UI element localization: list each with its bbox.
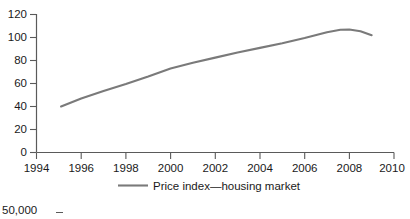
y-axis-ticks — [30, 15, 37, 153]
x-axis-tick-labels: 1994 1996 1998 2000 2002 2004 2006 2008 … — [24, 162, 405, 174]
series-line-price-index — [61, 29, 372, 106]
x-axis-ticks — [37, 153, 395, 160]
y-tick-label: 40 — [14, 100, 27, 112]
chart-legend: Price index—housing market — [118, 180, 301, 192]
y-tick-label: 100 — [8, 31, 27, 43]
legend-label: Price index—housing market — [153, 180, 301, 192]
y-tick-label: 20 — [14, 123, 27, 135]
price-index-line-chart: 120 100 80 60 40 20 0 1994 1996 1998 200… — [0, 0, 410, 219]
y-tick-label: 0 — [21, 146, 27, 158]
next-figure-partial-tick-label: 50,000 — [2, 204, 37, 216]
x-tick-label: 2008 — [337, 162, 363, 174]
chart-plot-area: 120 100 80 60 40 20 0 1994 1996 1998 200… — [0, 0, 410, 196]
y-tick-label: 60 — [14, 77, 27, 89]
x-tick-label: 2004 — [247, 162, 273, 174]
x-tick-label: 1998 — [113, 162, 139, 174]
y-tick-label: 120 — [8, 8, 27, 20]
y-tick-label: 80 — [14, 54, 27, 66]
y-axis-tick-labels: 120 100 80 60 40 20 0 — [8, 8, 27, 158]
x-tick-label: 1994 — [24, 162, 50, 174]
next-figure-partial-tick-mark — [56, 212, 63, 213]
x-tick-label: 2000 — [158, 162, 184, 174]
x-tick-label: 2010 — [379, 162, 405, 174]
next-figure-fragment: 50,000 — [0, 201, 410, 219]
x-tick-label: 2002 — [203, 162, 229, 174]
x-tick-label: 1996 — [68, 162, 94, 174]
x-tick-label: 2006 — [292, 162, 318, 174]
